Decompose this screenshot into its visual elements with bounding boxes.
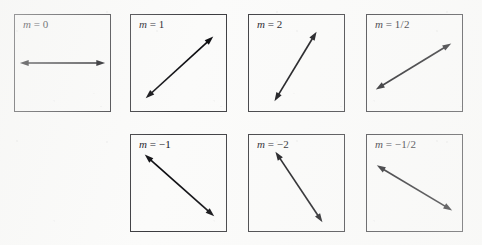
slope-arrow <box>131 135 226 231</box>
slope-arrow <box>367 15 462 111</box>
panel-slope-half: m = 1/2 <box>366 14 463 112</box>
arrow-head-start <box>377 165 386 172</box>
arrow-shaft <box>382 47 445 85</box>
arrow-head-start <box>275 152 282 161</box>
slope-arrow <box>15 15 110 111</box>
arrow-head-end <box>443 203 452 210</box>
arrow-shaft <box>150 160 208 212</box>
panel-slope-2: m = 2 <box>248 14 345 112</box>
arrow-head-end <box>309 32 316 41</box>
arrow-shaft <box>278 38 312 95</box>
arrow-head-start <box>376 82 385 89</box>
arrow-shaft <box>151 42 208 94</box>
panel-slope-1: m = 1 <box>130 14 227 112</box>
slope-arrow <box>367 135 462 231</box>
slope-arrow <box>249 15 344 111</box>
arrow-shaft <box>280 158 319 216</box>
arrow-shaft <box>383 169 446 206</box>
panel-slope-neg1: m = −1 <box>130 134 227 232</box>
slope-figure-grid: m = 0m = 1m = 2m = 1/2m = −1m = −2m = −1… <box>0 0 482 245</box>
arrow-head-start <box>20 60 29 66</box>
panel-slope-0: m = 0 <box>14 14 111 112</box>
arrow-head-end <box>96 60 105 66</box>
arrow-head-end <box>442 43 451 50</box>
panel-slope-neghalf: m = −1/2 <box>366 134 463 232</box>
slope-arrow <box>249 135 344 231</box>
arrow-head-end <box>315 213 322 222</box>
panel-slope-neg2: m = −2 <box>248 134 345 232</box>
slope-arrow <box>131 15 226 111</box>
arrow-head-start <box>274 92 281 101</box>
